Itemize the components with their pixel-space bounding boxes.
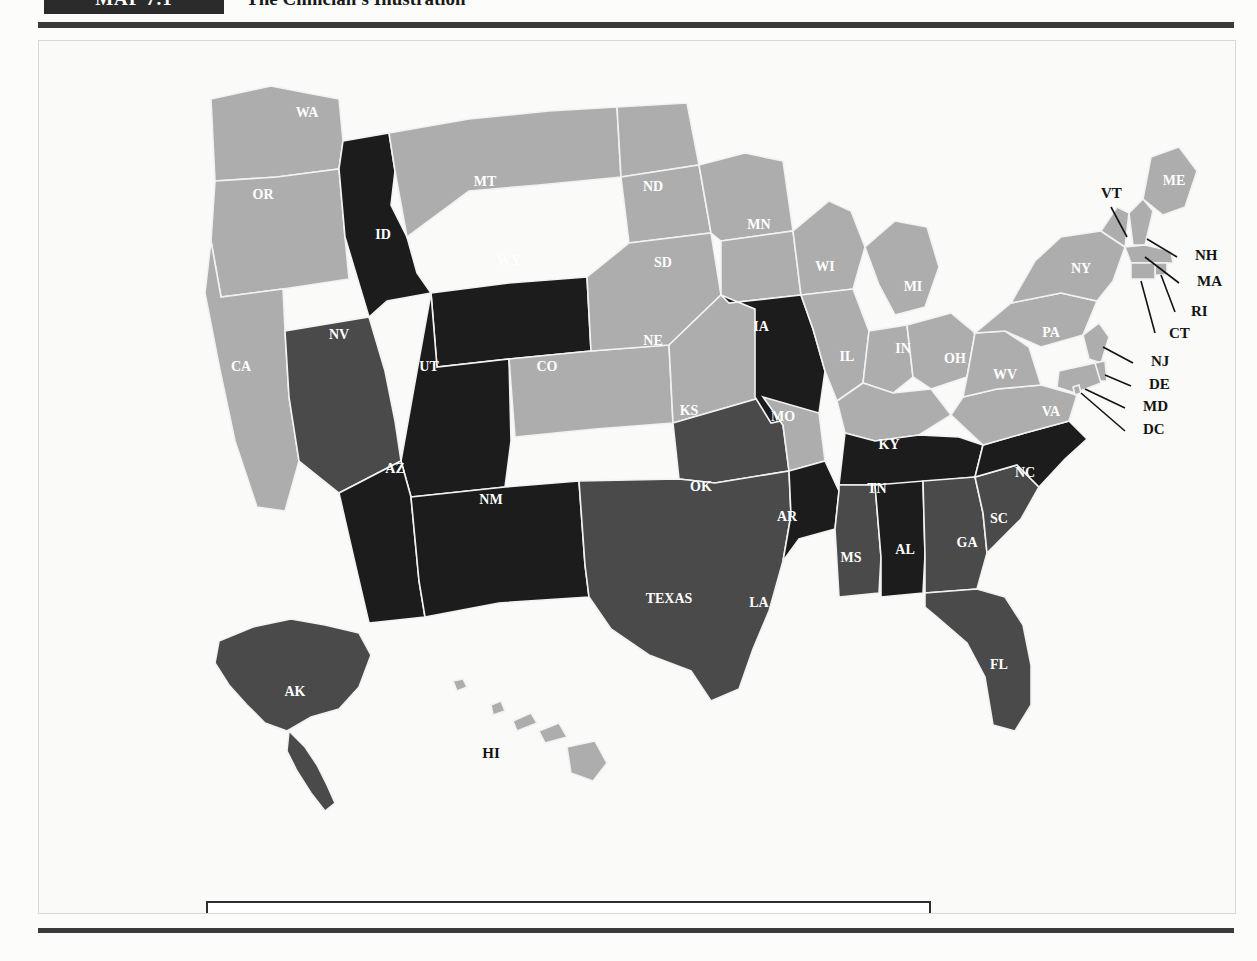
- map-label-wy: WY: [497, 253, 521, 268]
- map-region-mi[interactable]: [865, 221, 939, 315]
- map-region-nj[interactable]: [1083, 323, 1109, 363]
- map-label-oh: OH: [944, 351, 966, 366]
- legend-label-low: Low 2.5–8.7: [795, 914, 881, 915]
- leader-line-nj: [1103, 347, 1133, 363]
- footer-rule: [38, 928, 1234, 933]
- map-label-il: IL: [840, 349, 855, 364]
- map-label-sd: SD: [654, 255, 672, 270]
- map-region-mn[interactable]: [699, 153, 793, 241]
- map-region-nv[interactable]: [285, 317, 401, 493]
- map-label-la: LA: [749, 595, 769, 610]
- map-region-tx[interactable]: [579, 471, 791, 701]
- legend-swatch-average: [491, 913, 531, 915]
- map-label-wa: WA: [296, 105, 319, 120]
- map-label-al: AL: [895, 542, 914, 557]
- legend-item-average[interactable]: Average 8.8–10.4: [491, 913, 665, 915]
- map-label-hi: HI: [482, 745, 500, 761]
- map-label-tn: TN: [867, 481, 886, 496]
- map-region-dc[interactable]: [1073, 385, 1081, 395]
- figure-tag: MAP 7.1: [44, 0, 224, 14]
- legend-swatch-low: [741, 913, 781, 915]
- map-label-nc: NC: [1015, 465, 1035, 480]
- map-label-nh: NH: [1195, 247, 1218, 263]
- map-label-ar: AR: [777, 509, 798, 524]
- map-label-ks: KS: [680, 403, 699, 418]
- map-region-wi[interactable]: [793, 201, 865, 295]
- page-title: The Clinician's Illustration: [246, 0, 466, 14]
- map-label-nm: NM: [479, 492, 502, 507]
- map-region-in[interactable]: [863, 325, 913, 393]
- map-region-ak[interactable]: [215, 619, 371, 811]
- figure-header: MAP 7.1 The Clinician's Illustration: [0, 0, 1257, 22]
- map-label-fl: FL: [990, 657, 1008, 672]
- leader-line-dc: [1081, 393, 1125, 431]
- map-label-ct: CT: [1169, 325, 1190, 341]
- map-region-hi[interactable]: [453, 679, 607, 781]
- header-rule: [38, 22, 1234, 28]
- map-region-ms[interactable]: [835, 485, 881, 597]
- map-label-me: ME: [1163, 173, 1186, 188]
- map-label-md: MD: [1143, 398, 1168, 414]
- map-label-az: AZ: [385, 461, 404, 476]
- map-label-ny: NY: [1071, 261, 1091, 276]
- legend-swatch-high: [256, 913, 296, 915]
- map-label-wv: WV: [993, 367, 1017, 382]
- legend-item-low[interactable]: Low 2.5–8.7: [741, 913, 881, 915]
- map-label-ma: MA: [1197, 273, 1222, 289]
- map-region-co[interactable]: [509, 345, 673, 437]
- map-region-or[interactable]: [211, 169, 349, 297]
- map-label-sc: SC: [990, 511, 1008, 526]
- leader-line-de: [1105, 375, 1131, 386]
- map-label-dc: DC: [1143, 421, 1165, 437]
- map-label-nd: ND: [643, 179, 663, 194]
- map-label-ok: OK: [690, 479, 712, 494]
- map-label-nj: NJ: [1151, 353, 1170, 369]
- map-region-fl[interactable]: [925, 589, 1031, 731]
- map-label-ga: GA: [957, 535, 979, 550]
- legend-label-high: High 10.5–16.6: [310, 914, 416, 915]
- map-label-va: VA: [1042, 404, 1061, 419]
- map-label-ky: KY: [879, 437, 900, 452]
- map-label-ia: IA: [753, 319, 769, 334]
- map-label-in: IN: [895, 341, 911, 356]
- map-label-ak: AK: [285, 684, 306, 699]
- map-label-ca: CA: [231, 359, 252, 374]
- map-label-ut: UT: [419, 359, 439, 374]
- map-label-pa: PA: [1042, 325, 1061, 340]
- map-label-id: ID: [375, 227, 391, 242]
- map-label-mi: MI: [904, 279, 923, 294]
- map-label-mt: MT: [474, 174, 497, 189]
- map-stage: WAORCANVIDMTWYUTCOAZNMNDSDNEKSOKTEXASMNI…: [39, 41, 1235, 913]
- map-region-sd[interactable]: [621, 165, 711, 243]
- map-label-ri: RI: [1191, 303, 1208, 319]
- map-label-vt: VT: [1101, 185, 1122, 201]
- map-label-de: DE: [1149, 376, 1170, 392]
- map-region-ny[interactable]: [1011, 231, 1125, 303]
- map-region-nd[interactable]: [617, 103, 699, 177]
- leader-line-ct: [1141, 281, 1155, 333]
- map-label-ms: MS: [841, 550, 862, 565]
- map-region-ia[interactable]: [721, 231, 801, 303]
- map-label-ne: NE: [643, 333, 662, 348]
- map-legend: High 10.5–16.6 Average 8.8–10.4 Low 2.5–…: [206, 901, 931, 914]
- legend-item-high[interactable]: High 10.5–16.6: [256, 913, 416, 915]
- map-label-wi: WI: [815, 259, 834, 274]
- map-label-nv: NV: [329, 327, 349, 342]
- map-label-tx: TEXAS: [646, 591, 693, 606]
- map-label-co: CO: [537, 359, 558, 374]
- map-region-tn[interactable]: [839, 433, 983, 485]
- legend-label-average: Average 8.8–10.4: [545, 914, 665, 915]
- map-label-mo: MO: [771, 409, 795, 424]
- map-region-nh[interactable]: [1129, 199, 1153, 245]
- map-region-mt[interactable]: [389, 107, 621, 237]
- map-label-or: OR: [253, 187, 275, 202]
- map-label-mn: MN: [747, 217, 770, 232]
- map-region-wa[interactable]: [211, 86, 343, 181]
- map-panel: WAORCANVIDMTWYUTCOAZNMNDSDNEKSOKTEXASMNI…: [38, 40, 1236, 914]
- leader-line-md: [1085, 389, 1125, 408]
- map-region-ct[interactable]: [1131, 263, 1155, 279]
- us-choropleth-map[interactable]: WAORCANVIDMTWYUTCOAZNMNDSDNEKSOKTEXASMNI…: [39, 41, 1235, 913]
- leader-line-ri: [1161, 275, 1175, 312]
- map-region-al[interactable]: [875, 481, 925, 597]
